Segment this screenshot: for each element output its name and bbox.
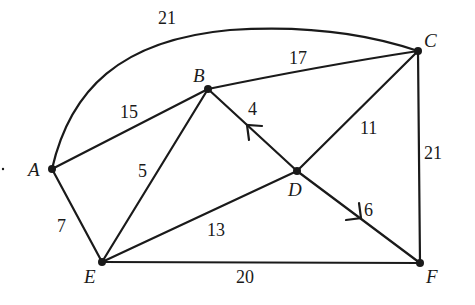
edge-D-F [297, 171, 420, 263]
node-F [416, 259, 424, 267]
graph-diagram: A B C D E F 21 15 17 5 4 11 21 13 6 7 20 [0, 0, 475, 305]
weight-D-F: 6 [364, 200, 373, 220]
edges [52, 29, 420, 263]
node-label-C: C [424, 30, 437, 51]
arrow-D-F-icon [346, 203, 361, 220]
edge-weights: 21 15 17 5 4 11 21 13 6 7 20 [57, 8, 442, 287]
node-C [414, 47, 422, 55]
edge-E-F [102, 262, 420, 263]
node-A [48, 165, 56, 173]
node-label-D: D [287, 179, 302, 200]
weight-E-F: 20 [236, 267, 254, 287]
node-label-A: A [26, 159, 40, 180]
stray-mark [2, 168, 4, 170]
node-label-F: F [425, 266, 438, 287]
node-E [98, 258, 106, 266]
weight-A-E: 7 [57, 216, 66, 236]
edge-D-E [102, 171, 297, 262]
edge-C-F [418, 51, 420, 263]
nodes [48, 47, 424, 267]
weight-A-B: 15 [120, 102, 138, 122]
node-B [204, 85, 212, 93]
weight-C-F: 21 [424, 143, 442, 163]
node-D [293, 167, 301, 175]
node-label-B: B [193, 65, 205, 86]
weight-B-D: 4 [248, 99, 257, 119]
weight-D-E: 13 [207, 220, 225, 240]
edge-A-C [52, 29, 418, 169]
weight-B-C: 17 [289, 48, 307, 68]
weight-A-C: 21 [158, 8, 176, 28]
node-label-E: E [83, 266, 96, 287]
weight-B-E: 5 [138, 161, 147, 181]
weight-C-D: 11 [360, 118, 377, 138]
node-labels: A B C D E F [26, 30, 438, 287]
